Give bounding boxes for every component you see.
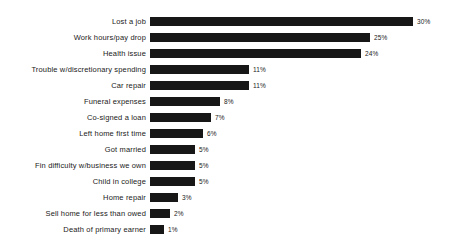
- bar: [150, 193, 178, 202]
- table-row: Funeral expenses 8%: [0, 93, 460, 109]
- bar: [150, 81, 249, 90]
- table-row: Health issue 24%: [0, 45, 460, 61]
- bar: [150, 161, 195, 170]
- bar-area: 24%: [150, 45, 460, 61]
- category-label: Fin difficulty w/business we own: [0, 161, 150, 170]
- bar: [150, 33, 370, 42]
- bar: [150, 145, 195, 154]
- category-label: Death of primary earner: [0, 225, 150, 234]
- table-row: Home repair 3%: [0, 189, 460, 205]
- table-row: Left home first time 6%: [0, 125, 460, 141]
- bar: [150, 225, 164, 234]
- value-label: 6%: [207, 129, 217, 138]
- category-label: Trouble w/discretionary spending: [0, 65, 150, 74]
- value-label: 2%: [174, 209, 184, 218]
- bar: [150, 129, 203, 138]
- horizontal-bar-chart: Lost a job 30% Work hours/pay drop 25% H…: [0, 0, 460, 237]
- bar: [150, 65, 249, 74]
- value-label: 8%: [224, 97, 234, 106]
- bar-area: 11%: [150, 61, 460, 77]
- category-label: Child in college: [0, 177, 150, 186]
- value-label: 24%: [365, 49, 378, 58]
- category-label: Health issue: [0, 49, 150, 58]
- table-row: Co-signed a loan 7%: [0, 109, 460, 125]
- table-row: Sell home for less than owed 2%: [0, 205, 460, 221]
- bar-area: 1%: [150, 221, 460, 237]
- value-label: 25%: [374, 33, 387, 42]
- table-row: Trouble w/discretionary spending 11%: [0, 61, 460, 77]
- value-label: 1%: [168, 225, 178, 234]
- value-label: 7%: [215, 113, 225, 122]
- table-row: Work hours/pay drop 25%: [0, 29, 460, 45]
- bar-area: 5%: [150, 141, 460, 157]
- bar: [150, 17, 413, 26]
- bar-area: 2%: [150, 205, 460, 221]
- bar: [150, 177, 195, 186]
- bar-area: 25%: [150, 29, 460, 45]
- bar-area: 5%: [150, 157, 460, 173]
- bar-area: 6%: [150, 125, 460, 141]
- category-label: Funeral expenses: [0, 97, 150, 106]
- category-label: Left home first time: [0, 129, 150, 138]
- category-label: Sell home for less than owed: [0, 209, 150, 218]
- table-row: Child in college 5%: [0, 173, 460, 189]
- category-label: Home repair: [0, 193, 150, 202]
- value-label: 30%: [417, 17, 430, 26]
- table-row: Fin difficulty w/business we own 5%: [0, 157, 460, 173]
- table-row: Lost a job 30%: [0, 13, 460, 29]
- bar: [150, 113, 211, 122]
- category-label: Lost a job: [0, 17, 150, 26]
- value-label: 5%: [199, 161, 209, 170]
- bar-area: 7%: [150, 109, 460, 125]
- value-label: 11%: [253, 65, 266, 74]
- bar-area: 8%: [150, 93, 460, 109]
- table-row: Death of primary earner 1%: [0, 221, 460, 237]
- bar: [150, 97, 220, 106]
- category-label: Co-signed a loan: [0, 113, 150, 122]
- value-label: 11%: [253, 81, 266, 90]
- category-label: Got married: [0, 145, 150, 154]
- bar-rows-container: Lost a job 30% Work hours/pay drop 25% H…: [0, 13, 460, 237]
- table-row: Car repair 11%: [0, 77, 460, 93]
- bar: [150, 49, 361, 58]
- value-label: 3%: [182, 193, 192, 202]
- bar-area: 3%: [150, 189, 460, 205]
- value-label: 5%: [199, 145, 209, 154]
- table-row: Got married 5%: [0, 141, 460, 157]
- bar-area: 5%: [150, 173, 460, 189]
- value-label: 5%: [199, 177, 209, 186]
- bar-area: 11%: [150, 77, 460, 93]
- bar-area: 30%: [150, 13, 460, 29]
- category-label: Car repair: [0, 81, 150, 90]
- category-label: Work hours/pay drop: [0, 33, 150, 42]
- bar: [150, 209, 170, 218]
